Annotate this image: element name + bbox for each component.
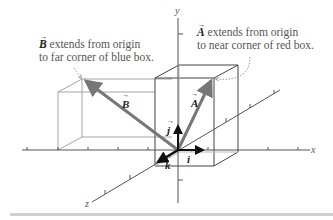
caption-a-symbol: A — [197, 26, 205, 39]
vector-a-label: →A — [191, 97, 198, 109]
caption-a-line1: extends from origin — [205, 26, 299, 38]
caption-b-line2: to far corner of blue box. — [39, 51, 154, 63]
b-leader-line — [74, 68, 81, 78]
caption-b-line1: extends from origin — [47, 38, 141, 50]
vector-b-label-text: B — [122, 98, 129, 110]
vector-diagram: B extends from origin to far corner of b… — [0, 0, 333, 220]
unit-vector-j-label: →j — [167, 124, 170, 136]
unit-vector-k-text: k — [165, 159, 171, 171]
vector-b-caption: B extends from origin to far corner of b… — [39, 38, 154, 64]
vector-a-caption: A extends from origin to near corner of … — [197, 26, 314, 52]
unit-vector-j-text: j — [167, 124, 170, 136]
caption-b-symbol: B — [39, 38, 47, 51]
vector-a-label-text: A — [191, 97, 198, 109]
x-axis-label: x — [311, 144, 315, 155]
z-axis-label: z — [85, 198, 89, 209]
vector-b-arrow — [86, 81, 178, 150]
y-axis-label: y — [175, 5, 179, 16]
unit-vector-i-text: i — [187, 153, 190, 165]
vector-b-label: →B — [122, 98, 129, 110]
bottom-divider — [10, 213, 333, 216]
caption-a-line2: to near corner of red box. — [197, 39, 314, 51]
x-axis — [22, 147, 310, 150]
unit-vector-i-label: →i — [187, 153, 190, 165]
unit-vector-k-label: →k — [165, 159, 171, 171]
